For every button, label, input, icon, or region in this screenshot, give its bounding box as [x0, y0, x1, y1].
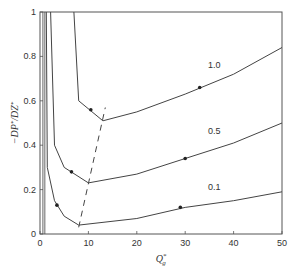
- y-tick-label: 1: [31, 7, 36, 17]
- arrow-marker-icon: [183, 157, 187, 161]
- curves: [43, 12, 282, 234]
- y-tick-label: 0.4: [23, 140, 36, 150]
- x-tick-label: 20: [132, 238, 142, 248]
- curve-1.0: [74, 12, 282, 121]
- y-axis-label: −DP*/DZ*: [9, 101, 20, 144]
- arrow-marker-icon: [89, 108, 93, 112]
- x-axis-label: Q*g: [156, 252, 167, 267]
- chart: 0102030405000.20.40.60.81 Q*g−DP*/DZ*1.0…: [0, 0, 295, 274]
- curve-minimum-locus: [79, 108, 106, 228]
- curve-0.5: [51, 12, 282, 183]
- plot-frame: [40, 12, 282, 234]
- curve-0.1: [46, 12, 282, 225]
- curve-label: 0.1: [208, 182, 221, 192]
- x-tick-label: 40: [229, 238, 239, 248]
- x-tick-label: 10: [83, 238, 93, 248]
- axes: 0102030405000.20.40.60.81: [23, 7, 287, 248]
- labels: Q*g−DP*/DZ*1.00.50.1: [9, 60, 220, 268]
- arrow-marker-icon: [70, 170, 74, 174]
- x-tick-label: 0: [37, 238, 42, 248]
- y-tick-label: 0: [31, 229, 36, 239]
- x-tick-label: 30: [180, 238, 190, 248]
- arrow-marker-icon: [179, 206, 183, 210]
- curve-label: 0.5: [208, 126, 221, 136]
- x-tick-label: 50: [277, 238, 287, 248]
- y-tick-label: 0.6: [23, 96, 36, 106]
- arrow-marker-icon: [198, 86, 202, 90]
- y-tick-label: 0.8: [23, 51, 36, 61]
- arrow-marker-icon: [55, 203, 59, 207]
- curve-label: 1.0: [208, 60, 221, 70]
- y-tick-label: 0.2: [23, 185, 36, 195]
